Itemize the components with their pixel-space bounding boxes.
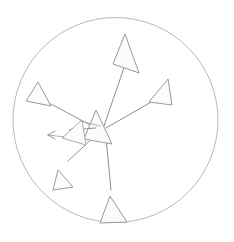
vector-field-canvas	[0, 0, 234, 242]
vector-east-shaft	[106, 101, 153, 128]
vector-southwest-arrowhead	[53, 170, 73, 190]
vector-field-figure	[0, 0, 234, 242]
vector-west-minor-arrowhead	[62, 120, 86, 145]
vector-north-arrowhead	[113, 34, 139, 73]
vector-northwest-arrowhead	[26, 82, 51, 106]
vector-east	[106, 79, 172, 128]
boundary-circle	[13, 18, 218, 223]
vector-northwest	[26, 82, 92, 126]
vector-east-arrowhead	[149, 79, 172, 105]
vector-south-shaft	[106, 138, 111, 190]
vector-south	[100, 138, 127, 223]
vector-west-minor	[48, 120, 86, 145]
vector-southwest	[53, 135, 96, 190]
vector-south-arrowhead	[100, 196, 127, 223]
